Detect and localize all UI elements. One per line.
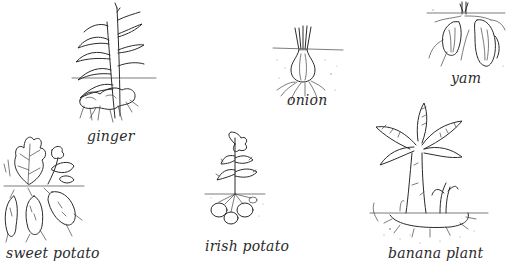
irish-potato-illustration-icon xyxy=(205,132,305,232)
banana-plant-panel: banana plant xyxy=(370,95,509,265)
yam-label: yam xyxy=(451,70,481,86)
sweet-potato-label: sweet potato xyxy=(6,245,100,261)
ginger-panel: ginger xyxy=(60,0,160,150)
sweet-potato-panel: sweet potato xyxy=(0,130,100,265)
banana-plant-label: banana plant xyxy=(388,245,483,261)
onion-label: onion xyxy=(287,92,327,108)
irish-potato-panel: irish potato xyxy=(205,132,305,257)
ginger-illustration-icon xyxy=(60,0,160,130)
yam-panel: yam xyxy=(425,0,509,90)
yam-illustration-icon xyxy=(425,0,509,72)
irish-potato-label: irish potato xyxy=(205,238,289,254)
banana-plant-illustration-icon xyxy=(370,95,509,245)
onion-panel: onion xyxy=(265,20,345,130)
sweet-potato-illustration-icon xyxy=(0,130,100,245)
